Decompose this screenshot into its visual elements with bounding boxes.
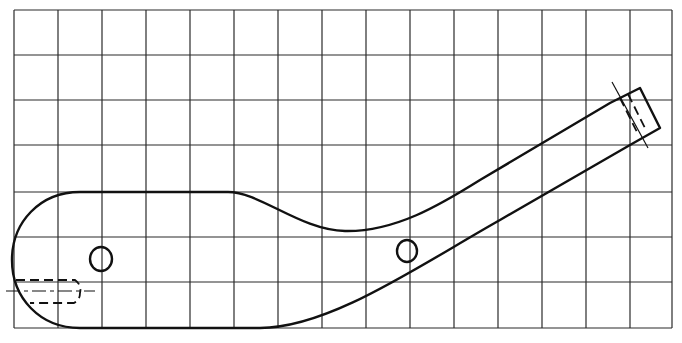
tenon-hidden-line-1 <box>620 98 637 132</box>
pattern-drawing <box>0 0 682 343</box>
right-hole <box>397 240 417 262</box>
part-outline <box>12 88 660 328</box>
left-hole <box>90 247 112 271</box>
grid <box>14 10 672 328</box>
